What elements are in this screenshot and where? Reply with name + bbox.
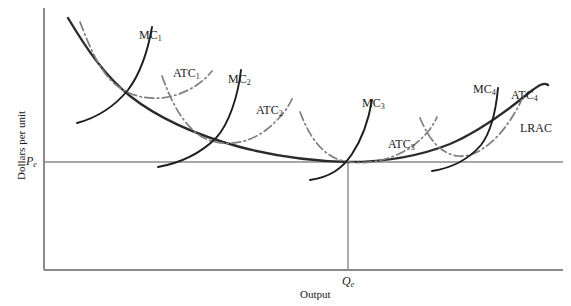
lrac-envelope-figure: MC1 ATC1 MC2 ATC2 MC3 ATC3 MC4 ATC4 LRAC…	[0, 0, 571, 306]
mc4-curve	[432, 88, 498, 171]
label-atc1: ATC1	[173, 67, 200, 79]
label-lrac: LRAC	[520, 122, 552, 134]
y-axis-label: Dollars per unit	[16, 111, 27, 180]
label-atc4: ATC4	[511, 89, 538, 101]
quantity-level-label: Qe	[342, 275, 354, 287]
plot-canvas	[0, 0, 571, 306]
label-mc2: MC2	[228, 73, 251, 85]
label-atc3: ATC3	[388, 138, 415, 150]
label-mc1: MC1	[139, 29, 162, 41]
label-mc4: MC4	[473, 83, 496, 95]
atc4-curve	[420, 97, 523, 156]
price-level-label: Pe	[26, 155, 37, 167]
x-axis-label: Output	[300, 289, 331, 300]
mc3-curve	[310, 100, 372, 180]
label-mc3: MC3	[362, 97, 385, 109]
label-atc2: ATC2	[256, 104, 283, 116]
